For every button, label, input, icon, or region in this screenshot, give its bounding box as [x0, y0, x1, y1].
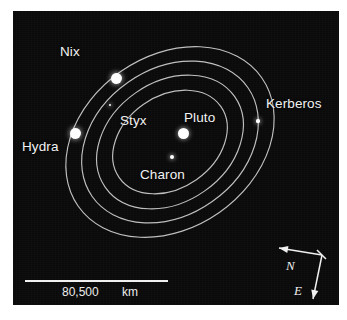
body-hydra [70, 128, 81, 139]
label-nix: Nix [60, 44, 80, 59]
nix-orbit [71, 48, 269, 237]
label-hydra: Hydra [22, 139, 59, 154]
north-arrowhead [279, 246, 288, 253]
charon-styx-orbit [93, 69, 247, 215]
label-kerberos: Kerberos [266, 96, 322, 111]
orbit-diagram-panel: NixHydraStyxPlutoKerberosCharon 80,500 k… [13, 11, 339, 305]
compass-east-label: E [294, 283, 302, 299]
body-nix [111, 73, 122, 84]
label-charon: Charon [140, 167, 185, 182]
figure-canvas: NixHydraStyxPlutoKerberosCharon 80,500 k… [0, 0, 347, 320]
label-pluto: Pluto [184, 110, 215, 125]
kerberos-orbit [50, 28, 289, 257]
body-pluto [178, 128, 189, 139]
scale-bar-line [25, 280, 168, 282]
scale-bar-unit: km [122, 285, 138, 299]
compass-north-label: N [286, 258, 295, 274]
label-styx: Styx [120, 113, 147, 128]
body-kerberos [256, 119, 259, 122]
east-arrowhead [311, 289, 318, 299]
scale-bar-value: 80,500 [62, 285, 99, 299]
